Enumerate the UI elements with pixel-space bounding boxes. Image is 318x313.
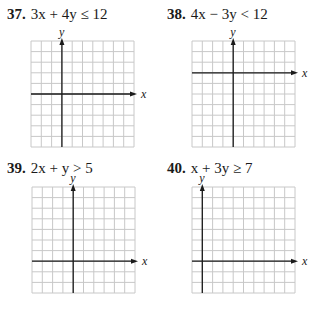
- x-axis-label: x: [140, 87, 147, 101]
- x-axis-label: x: [301, 66, 308, 80]
- inequality: 3x + 4y ≤ 12: [31, 6, 108, 22]
- coordinate-grid: xy: [32, 174, 152, 296]
- problem-37-title: 37.3x + 4y ≤ 12: [7, 7, 107, 22]
- problem-number: 40.: [167, 160, 186, 176]
- y-axis-label: y: [69, 171, 76, 185]
- x-axis-label: x: [141, 254, 148, 268]
- problem-number: 38.: [167, 6, 186, 22]
- y-axis-label: y: [229, 25, 236, 39]
- y-axis-label: y: [198, 171, 205, 185]
- inequality: 4x − 3y < 12: [191, 6, 268, 22]
- coordinate-grid: xy: [192, 28, 312, 150]
- problem-number: 39.: [7, 160, 26, 176]
- x-axis-label: x: [301, 254, 308, 268]
- coordinate-grid: xy: [31, 28, 151, 150]
- problem-38-title: 38.4x − 3y < 12: [167, 7, 268, 22]
- coordinate-grid: xy: [192, 174, 312, 296]
- y-axis-label: y: [58, 25, 65, 39]
- problem-number: 37.: [7, 6, 26, 22]
